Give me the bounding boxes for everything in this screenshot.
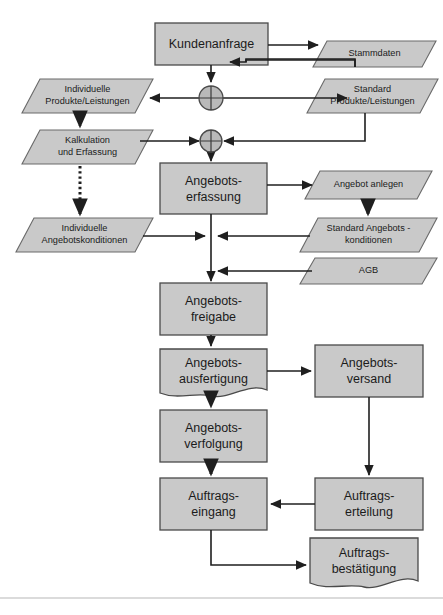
- node-auftrags-eingang[interactable]: [160, 478, 267, 530]
- flowchart-vector-layer: [0, 0, 443, 615]
- node-agb[interactable]: [300, 258, 437, 284]
- node-angebotsfreigabe[interactable]: [160, 283, 267, 335]
- node-individuelle-angebotskond[interactable]: [16, 218, 153, 252]
- node-stammdaten[interactable]: [313, 41, 436, 67]
- flowchart-canvas: Kundenanfrage Stammdaten Individuelle Pr…: [0, 0, 443, 615]
- node-angebotsausfertigung[interactable]: [160, 349, 267, 397]
- shape-group: [16, 23, 438, 588]
- connector-xor-2[interactable]: [200, 130, 222, 152]
- connector-xor-1[interactable]: [199, 86, 223, 110]
- node-individuelle-produkte[interactable]: [22, 79, 153, 113]
- node-standard-angebotskond[interactable]: [300, 218, 437, 252]
- node-angebotsversand[interactable]: [315, 345, 423, 397]
- edge-standard-produkte-xor2: [224, 113, 365, 141]
- node-auftrags-erteilung[interactable]: [315, 478, 423, 530]
- connector-group: [199, 86, 223, 152]
- node-kalkulation-erfassung[interactable]: [22, 130, 153, 164]
- node-angebotsverfolgung[interactable]: [160, 410, 267, 462]
- node-auftrags-bestaetigung[interactable]: [310, 538, 418, 588]
- node-angebotserfassung[interactable]: [160, 163, 267, 214]
- node-angebot-anlegen[interactable]: [305, 171, 432, 199]
- edge-eingang-bestaetigung: [211, 530, 306, 565]
- node-standard-produkte[interactable]: [307, 79, 438, 113]
